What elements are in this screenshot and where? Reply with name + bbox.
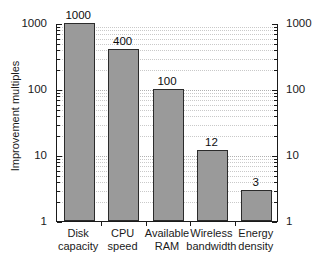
category-label-line: density <box>220 240 292 253</box>
y-axis-label-right: 1000 <box>286 18 312 30</box>
y-axis-label-right: 100 <box>286 84 305 96</box>
x-tick-minor <box>235 222 236 226</box>
y-tick-minor <box>274 110 277 111</box>
y-tick-minor <box>57 162 60 163</box>
y-axis-title: Improvement multiples <box>9 26 21 206</box>
x-tick-minor <box>190 222 191 226</box>
y-tick-minor <box>274 136 277 137</box>
y-tick-minor <box>57 171 60 172</box>
y-tick-minor <box>57 159 60 160</box>
y-axis-label-left: 1 <box>0 216 47 228</box>
y-tick-minor <box>274 125 277 126</box>
bar-value-label: 400 <box>93 36 153 48</box>
y-tick-minor <box>274 202 277 203</box>
x-tick-minor <box>101 222 102 226</box>
y-tick-minor <box>274 34 277 35</box>
y-tick-minor <box>274 96 277 97</box>
bar-value-label: 3 <box>226 177 286 189</box>
y-tick-minor <box>274 162 277 163</box>
bar <box>197 150 228 221</box>
y-tick-major <box>57 90 62 91</box>
y-tick-minor <box>57 27 60 28</box>
y-axis-label-right: 1 <box>286 216 292 228</box>
bar <box>108 49 139 221</box>
y-tick-minor <box>57 110 60 111</box>
y-tick-minor <box>274 166 277 167</box>
y-tick-minor <box>57 50 60 51</box>
bar <box>64 23 95 221</box>
y-tick-minor <box>57 59 60 60</box>
y-tick-minor <box>274 50 277 51</box>
y-axis-label-left: 100 <box>0 84 47 96</box>
y-tick-minor <box>57 202 60 203</box>
y-tick-minor <box>57 44 60 45</box>
y-axis-label-left: 1000 <box>0 18 47 30</box>
y-tick-minor <box>57 100 60 101</box>
y-axis-label-left: 10 <box>0 150 47 162</box>
y-tick-minor <box>274 100 277 101</box>
y-tick-minor <box>57 96 60 97</box>
y-tick-minor <box>57 166 60 167</box>
y-tick-major <box>272 156 277 157</box>
bar-value-label: 100 <box>137 76 197 88</box>
bar-value-label: 12 <box>181 137 241 149</box>
bar-value-label: 1000 <box>48 10 108 22</box>
y-tick-minor <box>57 39 60 40</box>
y-tick-minor <box>274 93 277 94</box>
y-tick-major <box>57 24 62 25</box>
y-tick-minor <box>274 116 277 117</box>
y-axis-label-right: 10 <box>286 150 299 162</box>
x-tick-minor <box>146 222 147 226</box>
y-tick-minor <box>57 34 60 35</box>
x-axis-category-label: Energydensity <box>220 227 292 253</box>
y-tick-major <box>272 222 277 223</box>
y-tick-minor <box>274 191 277 192</box>
y-tick-minor <box>57 176 60 177</box>
y-tick-minor <box>57 136 60 137</box>
y-tick-minor <box>274 30 277 31</box>
y-tick-minor <box>274 171 277 172</box>
y-tick-minor <box>274 105 277 106</box>
y-tick-minor <box>274 44 277 45</box>
y-tick-minor <box>57 116 60 117</box>
y-tick-minor <box>274 70 277 71</box>
plot-area <box>56 24 278 222</box>
y-tick-major <box>57 156 62 157</box>
y-tick-major <box>272 90 277 91</box>
y-tick-minor <box>274 27 277 28</box>
y-tick-minor <box>57 30 60 31</box>
bar-chart-figure: Improvement multiples 1000100101 1000100… <box>0 0 326 269</box>
y-tick-minor <box>274 159 277 160</box>
y-tick-minor <box>57 182 60 183</box>
y-tick-minor <box>57 93 60 94</box>
y-tick-major <box>57 222 62 223</box>
y-tick-minor <box>57 191 60 192</box>
y-tick-minor <box>57 70 60 71</box>
y-tick-minor <box>274 39 277 40</box>
y-tick-minor <box>274 59 277 60</box>
y-tick-minor <box>57 105 60 106</box>
y-tick-major <box>272 24 277 25</box>
y-tick-minor <box>57 125 60 126</box>
bar <box>241 190 272 221</box>
category-label-line: Energy <box>220 227 292 240</box>
bar <box>153 89 184 221</box>
